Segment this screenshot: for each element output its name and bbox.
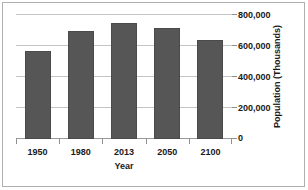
x-tick <box>189 139 190 144</box>
x-tick <box>16 139 17 144</box>
bar-slot-2100 <box>189 14 232 139</box>
bar-slot-1980 <box>59 14 102 139</box>
bar-1950[interactable] <box>25 51 51 139</box>
x-axis-labels: 1950 1980 2013 2050 2100 <box>16 146 232 160</box>
y-tick <box>232 138 237 139</box>
x-axis-label-2100: 2100 <box>189 146 232 160</box>
x-tick <box>146 139 147 144</box>
x-axis-ticks <box>16 139 232 144</box>
bar-slot-2013 <box>102 14 145 139</box>
y-axis-label-0: 0 <box>238 134 243 143</box>
y-axis-label-600000: 600,000 <box>238 42 271 51</box>
x-axis-label-1950: 1950 <box>16 146 59 160</box>
y-tick <box>232 76 237 77</box>
bar-group <box>16 14 232 139</box>
bar-slot-2050 <box>146 14 189 139</box>
y-tick <box>232 14 237 15</box>
plot-area <box>16 14 232 139</box>
bar-2100[interactable] <box>197 40 223 139</box>
x-tick <box>59 139 60 144</box>
y-axis-label-200000: 200,000 <box>238 104 271 113</box>
bar-slot-1950 <box>16 14 59 139</box>
x-axis-label-2050: 2050 <box>146 146 189 160</box>
bar-1980[interactable] <box>68 31 94 139</box>
x-tick <box>231 139 232 144</box>
x-tick <box>102 139 103 144</box>
y-axis-ticks <box>232 14 237 139</box>
x-axis-label-1980: 1980 <box>59 146 102 160</box>
y-axis-label-400000: 400,000 <box>238 73 271 82</box>
y-axis-label-800000: 800,000 <box>238 11 271 20</box>
chart-figure: 800,000 600,000 400,000 200,000 0 1950 1… <box>0 0 308 190</box>
x-axis-title: Year <box>16 161 232 171</box>
bar-2013[interactable] <box>111 23 137 139</box>
y-tick <box>232 45 237 46</box>
x-axis-label-2013: 2013 <box>102 146 145 160</box>
bar-2050[interactable] <box>154 28 180 139</box>
y-tick <box>232 107 237 108</box>
y-axis-title: Population (Thousands) <box>272 14 286 139</box>
